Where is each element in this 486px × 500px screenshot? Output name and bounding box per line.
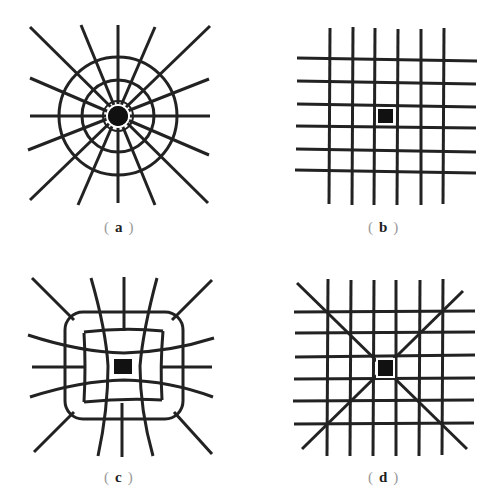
panel-a-diagram bbox=[28, 25, 210, 205]
panel-d-label: (d) bbox=[368, 469, 398, 486]
panel-letter: d bbox=[379, 469, 387, 485]
center-square bbox=[113, 358, 133, 375]
center-square bbox=[377, 359, 394, 377]
center-square bbox=[377, 108, 394, 124]
panel-letter: a bbox=[115, 219, 123, 235]
panel-c-diagram bbox=[28, 277, 214, 457]
panel-letter: c bbox=[115, 469, 122, 485]
panel-b-label: (b) bbox=[368, 219, 398, 236]
panel-letter: b bbox=[379, 219, 387, 235]
panel-a-label: (a) bbox=[104, 219, 134, 236]
figure-canvas bbox=[0, 0, 486, 500]
panel-d-diagram bbox=[293, 279, 475, 456]
panel-b-diagram bbox=[295, 27, 477, 205]
panel-c-label: (c) bbox=[104, 469, 133, 486]
